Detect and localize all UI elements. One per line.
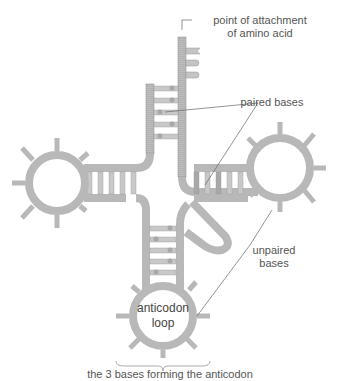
anticodon-label-line1: anticodon <box>128 301 198 316</box>
anticodon-bases-text: the 3 bases forming the anticodon <box>80 368 260 381</box>
t-arm <box>194 122 326 212</box>
unpaired-bases-label: unpaired bases <box>244 244 304 270</box>
t-loop <box>250 138 310 198</box>
attachment-label: point of attachment of amino acid <box>205 14 315 40</box>
variable-loop <box>186 202 228 250</box>
paired-bases-label: paired bases <box>232 96 312 109</box>
d-loop <box>29 155 85 211</box>
anticodon-bases-caption: the 3 bases forming the anticodon <box>80 368 260 381</box>
acceptor-stem <box>146 37 200 177</box>
unpaired-label-line2: bases <box>244 257 304 270</box>
d-arm-base-pairs <box>87 172 136 194</box>
anticodon-arm <box>116 204 210 358</box>
anticodon-label-line2: loop <box>128 316 198 331</box>
d-arm <box>12 138 146 230</box>
unpaired-label-line1: unpaired <box>244 244 304 257</box>
paired-bases-text: paired bases <box>232 96 312 109</box>
attachment-label-line1: point of attachment <box>205 14 315 27</box>
attachment-label-line2: of amino acid <box>205 27 315 40</box>
anticodon-base-pairs <box>150 226 176 276</box>
anticodon-loop-label: anticodon loop <box>128 301 198 331</box>
